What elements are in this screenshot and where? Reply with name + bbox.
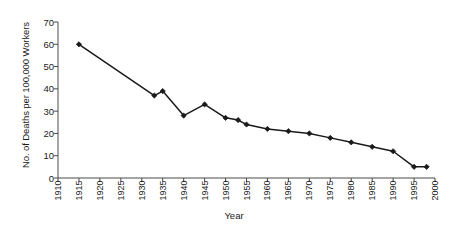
series-markers-occupational-deaths: [76, 42, 429, 170]
x-tick-label: 1990: [388, 175, 399, 207]
x-tick-label: 1955: [241, 175, 252, 207]
x-tick-label: 1960: [262, 175, 273, 207]
chart-figure: No. of Deaths per 100,000 Workers 010203…: [0, 0, 468, 232]
axis-lines: [58, 22, 435, 178]
x-tick-label: 1915: [73, 175, 84, 207]
x-tick-label: 1910: [53, 175, 64, 207]
x-tick-label: 1995: [409, 175, 420, 207]
x-tick-label: 1985: [367, 175, 378, 207]
x-axis-title: Year: [0, 210, 468, 221]
x-tick-label: 1920: [94, 175, 105, 207]
x-tick-label: 1930: [136, 175, 147, 207]
x-tick-label: 1950: [220, 175, 231, 207]
x-tick-label: 1925: [115, 175, 126, 207]
series-line-occupational-deaths: [79, 44, 427, 167]
x-tick-label: 1980: [346, 175, 357, 207]
y-axis-ticks: [54, 22, 58, 178]
x-tick-label: 2000: [430, 175, 441, 207]
x-tick-label: 1975: [325, 175, 336, 207]
x-tick-label: 1970: [304, 175, 315, 207]
x-tick-label: 1965: [283, 175, 294, 207]
x-tick-label: 1940: [178, 175, 189, 207]
x-tick-label: 1945: [199, 175, 210, 207]
x-tick-label: 1935: [157, 175, 168, 207]
